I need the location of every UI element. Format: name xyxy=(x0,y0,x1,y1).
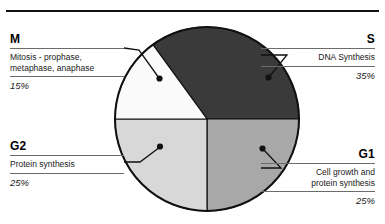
callout-g2-key: G2 xyxy=(10,140,124,153)
pie-chart-figure: M Mitosis - prophase, metaphase, anaphas… xyxy=(0,0,385,224)
callout-g1-key: G1 xyxy=(261,148,375,161)
callout-m-description: Mitosis - prophase, metaphase, anaphase xyxy=(10,49,124,76)
callout-m-desc-line1: Mitosis - prophase, xyxy=(10,52,82,62)
callout-m[interactable]: M Mitosis - prophase, metaphase, anaphas… xyxy=(10,33,124,91)
callout-s[interactable]: S DNA Synthesis 35% xyxy=(261,33,375,81)
callout-g1-percent: 25% xyxy=(261,192,375,206)
callout-s-percent: 35% xyxy=(261,67,375,81)
callout-m-desc-line2: metaphase, anaphase xyxy=(10,63,94,73)
callout-g1-desc-line2: protein synthesis xyxy=(311,178,375,188)
callout-g1-desc-line1: Cell growth and xyxy=(316,167,375,177)
callout-g1[interactable]: G1 Cell growth and protein synthesis 25% xyxy=(261,148,375,206)
callout-s-description: DNA Synthesis xyxy=(261,49,375,66)
callout-g1-description: Cell growth and protein synthesis xyxy=(261,164,375,191)
pie-slice-g2[interactable] xyxy=(115,119,207,211)
callout-g2[interactable]: G2 Protein synthesis 25% xyxy=(10,140,124,188)
callout-g2-description: Protein synthesis xyxy=(10,156,124,173)
callout-g2-percent: 25% xyxy=(10,174,124,188)
callout-s-key: S xyxy=(261,33,375,46)
top-divider-rule xyxy=(6,10,379,12)
callout-m-key: M xyxy=(10,33,124,46)
callout-m-percent: 15% xyxy=(10,77,124,91)
